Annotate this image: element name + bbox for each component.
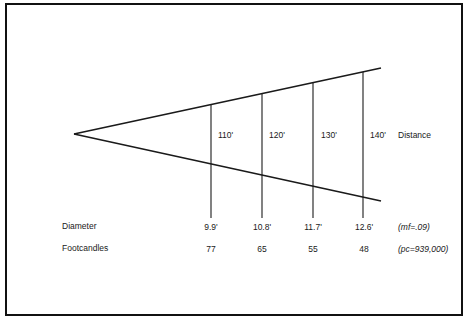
beam-upper-edge [74, 68, 381, 134]
footcandles-label: Footcandles [62, 243, 108, 253]
distance-label-120: 120' [269, 130, 285, 140]
distance-label-110: 110' [218, 130, 233, 140]
distance-label-130: 130' [321, 130, 337, 140]
beam-lower-edge [74, 134, 381, 201]
diameter-value-110: 9.9' [204, 222, 217, 232]
footcandles-note: (pc=939,000) [398, 244, 448, 254]
footcandles-value-110: 77 [206, 244, 215, 254]
diameter-value-140: 12.6' [355, 222, 373, 232]
footcandles-value-130: 55 [308, 244, 317, 254]
footcandles-value-140: 48 [359, 244, 368, 254]
distance-axis-label: Distance [398, 130, 431, 140]
distance-label-140: 140' [370, 130, 386, 140]
diameter-label: Diameter [62, 221, 96, 231]
diameter-value-130: 11.7' [304, 222, 322, 232]
diameter-note: (mf=.09) [398, 222, 430, 232]
diameter-value-120: 10.8' [253, 222, 271, 232]
footcandles-value-120: 65 [257, 244, 266, 254]
beam-spread-diagram [0, 0, 467, 318]
